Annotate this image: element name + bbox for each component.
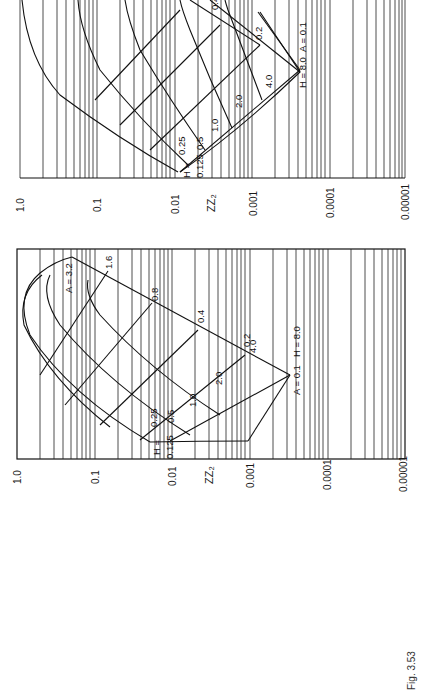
upper-tick-0001: 0.001 xyxy=(248,191,259,216)
lower-tick-001: 0.01 xyxy=(167,467,178,486)
upper-tick-00001: 0.0001 xyxy=(325,187,336,218)
label-h-2: 2.0 xyxy=(233,95,244,108)
upper-tick-01: 0.1 xyxy=(92,198,103,212)
label-a-01: A = 0.1 xyxy=(297,22,308,52)
label-a-02: 0.2 xyxy=(253,27,264,40)
label-h-2: 2.0 xyxy=(213,372,224,385)
label-h-4: 4.0 xyxy=(247,340,258,353)
lower-ylabel: ZZ₂ xyxy=(203,466,215,484)
label-h-025: 0.25 xyxy=(176,137,187,156)
log-gridlines xyxy=(20,0,405,178)
lower-tick-0001: 0.001 xyxy=(245,463,256,488)
label-h: H = xyxy=(151,440,162,456)
label-h-1: 1.0 xyxy=(187,394,198,407)
label-a-16: 1.6 xyxy=(103,256,114,269)
log-gridlines xyxy=(40,249,401,459)
label-h-0125: 0.125 xyxy=(194,154,205,178)
lower-tick-000001: 0.00001 xyxy=(398,456,409,492)
label-h-8: H = 8.0 xyxy=(297,57,308,88)
label-h-025: 0.25 xyxy=(148,409,159,428)
figure-caption: Fig. 3.53 xyxy=(406,651,417,690)
upper-h-labels: H = 0.125 0.25 0.5 1.0 2.0 4.0 H = 8.0 xyxy=(176,57,308,178)
lower-chart: A = 3.2 1.6 0.8 0.4 0.2 A = 0.1 H = 0.12… xyxy=(0,245,424,470)
plot-frame xyxy=(17,249,405,459)
label-h-8: H = 8.0 xyxy=(291,326,302,357)
upper-ylabel: ZZ₂ xyxy=(205,194,217,212)
lower-chart-plot: A = 3.2 1.6 0.8 0.4 0.2 A = 0.1 H = 0.12… xyxy=(0,245,424,470)
label-a-04: 0.4 xyxy=(209,0,220,10)
label-h-05: 0.5 xyxy=(165,410,176,423)
label-h-1: 1.0 xyxy=(209,119,220,132)
upper-tick-000001: 0.00001 xyxy=(400,184,411,220)
lower-a-labels: A = 3.2 1.6 0.8 0.4 0.2 A = 0.1 xyxy=(63,256,302,395)
label-h-05: 0.5 xyxy=(194,137,205,150)
label-h-0125: 0.125 xyxy=(164,435,175,459)
label-h-4: 4.0 xyxy=(263,75,274,88)
upper-tick-001: 0.01 xyxy=(170,195,181,214)
upper-tick-1: 1.0 xyxy=(15,198,26,212)
lower-tick-1: 1.0 xyxy=(12,470,23,484)
lower-tick-00001: 0.0001 xyxy=(322,459,333,490)
label-h: H = xyxy=(181,163,192,179)
curve-mesh xyxy=(22,0,300,172)
label-a-32: A = 3.2 xyxy=(63,263,74,293)
label-a-04: 0.4 xyxy=(195,310,206,323)
label-a-01: A = 0.1 xyxy=(291,365,302,395)
lower-tick-01: 0.1 xyxy=(90,470,101,484)
label-a-08: 0.8 xyxy=(149,288,160,301)
